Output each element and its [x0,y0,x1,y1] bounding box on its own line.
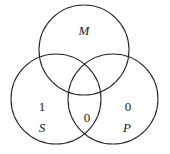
set-label-s: S [39,120,46,135]
region-value-s-only: 1 [39,99,46,114]
set-label-m: M [78,23,91,38]
region-value-p-only: 0 [125,99,132,114]
circle-p [68,54,158,144]
circle-s [11,54,101,144]
circle-m [39,5,129,95]
region-value-s-and-p: 0 [84,110,91,125]
venn-diagram: M S P 1 0 0 [0,0,170,154]
set-label-p: P [122,120,131,135]
